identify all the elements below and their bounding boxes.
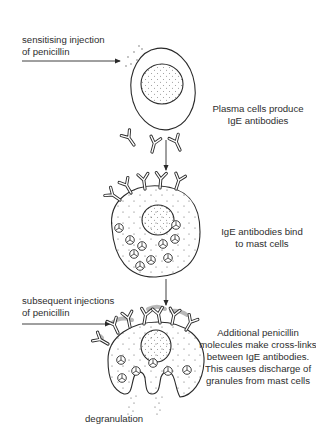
sensitising-injection-label: sensitising injection of penicillin xyxy=(22,34,105,58)
caption-line: Additional penicillin xyxy=(196,327,316,339)
free-ige-antibodies xyxy=(121,130,184,153)
caption-line: IgE antibodies xyxy=(208,115,308,127)
caption-line: IgE antibodies bind xyxy=(212,226,312,238)
plasma-cell-icon xyxy=(126,44,201,134)
ige-bind-caption: IgE antibodies bind to mast cells xyxy=(212,226,312,250)
label-line: subsequent injections xyxy=(22,295,114,307)
released-granule-contents xyxy=(127,395,162,414)
label-line: of penicillin xyxy=(22,307,114,319)
caption-line: This causes discharge of xyxy=(196,363,316,375)
caption-line: molecules make cross-links xyxy=(196,339,316,351)
caption-line: granules from mast cells xyxy=(196,375,316,387)
label-line: of penicillin xyxy=(22,46,105,58)
plasma-cells-caption: Plasma cells produce IgE antibodies xyxy=(208,103,308,127)
caption-line: Plasma cells produce xyxy=(208,103,308,115)
mast-cell-icon xyxy=(112,186,200,277)
degranulation-label: degranulation xyxy=(85,413,143,425)
caption-line: to mast cells xyxy=(212,238,312,250)
subsequent-injections-label: subsequent injections of penicillin xyxy=(22,295,114,319)
caption-line: between IgE antibodies. xyxy=(196,351,316,363)
label-line: degranulation xyxy=(85,413,143,425)
label-line: sensitising injection xyxy=(22,34,105,46)
crosslink-caption: Additional penicillin molecules make cro… xyxy=(196,327,316,387)
